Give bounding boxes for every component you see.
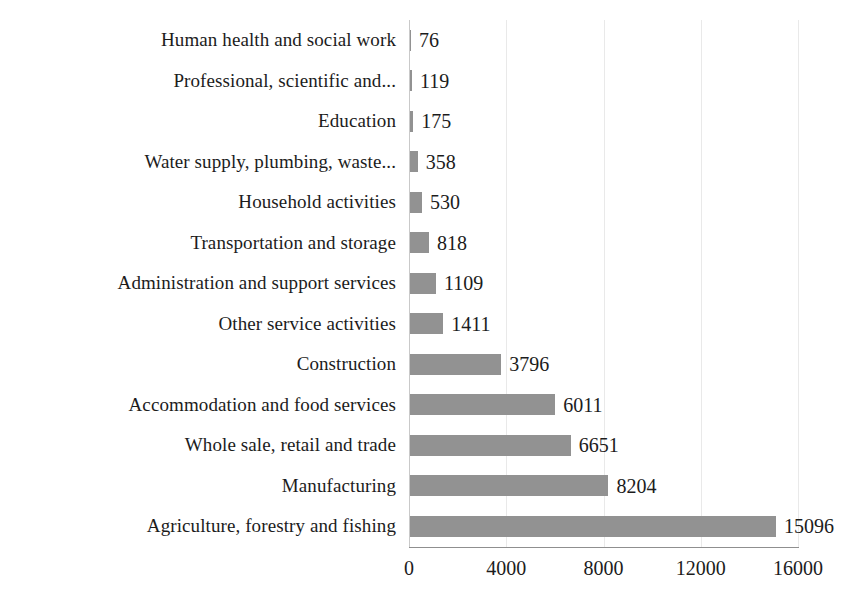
bar-chart: 7611917535853081811091411379660116651820… — [0, 0, 842, 598]
chart-row: 15096 — [409, 506, 798, 547]
category-label: Construction — [0, 344, 396, 385]
chart-row: 358 — [409, 142, 798, 183]
bar-value-label: 15096 — [784, 506, 834, 547]
x-tick-label: 8000 — [584, 553, 624, 583]
bar[interactable] — [409, 151, 418, 172]
x-tick-label: 16000 — [773, 553, 823, 583]
chart-row: 818 — [409, 223, 798, 264]
bar-value-label: 76 — [419, 20, 439, 61]
category-label: Human health and social work — [0, 20, 396, 61]
x-axis-line — [409, 547, 799, 548]
bar[interactable] — [409, 192, 422, 213]
bar-value-label: 175 — [421, 101, 451, 142]
x-axis-tick-labels: 0400080001200016000 — [0, 553, 842, 583]
plot-area: 7611917535853081811091411379660116651820… — [409, 20, 798, 547]
bar-value-label: 6011 — [563, 385, 602, 426]
bar-value-label: 6651 — [579, 425, 619, 466]
chart-row: 1109 — [409, 263, 798, 304]
category-label: Transportation and storage — [0, 223, 396, 264]
gridline — [798, 20, 799, 547]
category-label: Education — [0, 101, 396, 142]
bar[interactable] — [409, 394, 555, 415]
category-label: Water supply, plumbing, waste... — [0, 142, 396, 183]
bar-value-label: 358 — [426, 142, 456, 183]
category-label: Accommodation and food services — [0, 385, 396, 426]
chart-row: 6011 — [409, 385, 798, 426]
bar-value-label: 818 — [437, 223, 467, 264]
chart-row: 6651 — [409, 425, 798, 466]
bar[interactable] — [409, 232, 429, 253]
chart-row: 8204 — [409, 466, 798, 507]
category-label: Administration and support services — [0, 263, 396, 304]
bar-value-label: 8204 — [616, 466, 656, 507]
y-axis-line — [409, 20, 410, 547]
chart-row: 119 — [409, 61, 798, 102]
category-label: Household activities — [0, 182, 396, 223]
x-tick-label: 12000 — [676, 553, 726, 583]
chart-row: 530 — [409, 182, 798, 223]
bar[interactable] — [409, 273, 436, 294]
x-tick-label: 4000 — [486, 553, 526, 583]
bar[interactable] — [409, 516, 776, 537]
chart-row: 76 — [409, 20, 798, 61]
bar-value-label: 119 — [420, 61, 449, 102]
bar[interactable] — [409, 475, 608, 496]
bar[interactable] — [409, 313, 443, 334]
category-label: Other service activities — [0, 304, 396, 345]
chart-row: 3796 — [409, 344, 798, 385]
bar-value-label: 3796 — [509, 344, 549, 385]
category-label: Agriculture, forestry and fishing — [0, 506, 396, 547]
bar[interactable] — [409, 435, 571, 456]
bar-value-label: 530 — [430, 182, 460, 223]
category-label: Whole sale, retail and trade — [0, 425, 396, 466]
bar-value-label: 1411 — [451, 304, 490, 345]
bar-value-label: 1109 — [444, 263, 483, 304]
x-tick-label: 0 — [404, 553, 414, 583]
chart-row: 1411 — [409, 304, 798, 345]
chart-row: 175 — [409, 101, 798, 142]
category-label: Manufacturing — [0, 466, 396, 507]
bar[interactable] — [409, 354, 501, 375]
category-label: Professional, scientific and... — [0, 61, 396, 102]
